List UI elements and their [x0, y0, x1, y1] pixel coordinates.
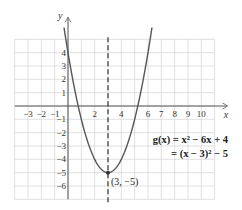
svg-text:7: 7 — [159, 109, 164, 119]
vertex-label: (3, −5) — [111, 176, 138, 188]
svg-text:−6: −6 — [56, 181, 66, 191]
svg-text:10: 10 — [197, 109, 207, 119]
svg-text:2: 2 — [92, 109, 97, 119]
svg-text:3: 3 — [62, 61, 67, 71]
parabola-chart: −3−2−1246789104321−1−2−3−4−5−6 (3, −5) x… — [0, 0, 242, 210]
svg-text:4: 4 — [119, 109, 124, 119]
svg-text:−4: −4 — [56, 154, 66, 164]
y-axis-label: y — [57, 10, 63, 21]
svg-text:6: 6 — [146, 109, 151, 119]
svg-text:−5: −5 — [56, 168, 66, 178]
svg-text:2: 2 — [62, 74, 67, 84]
svg-text:−2: −2 — [56, 128, 66, 138]
x-axis-label: x — [223, 109, 229, 120]
svg-text:−1: −1 — [56, 114, 66, 124]
svg-text:8: 8 — [172, 109, 177, 119]
svg-text:−3: −3 — [23, 109, 33, 119]
vertex-point — [106, 171, 110, 175]
equation-line-2: = (x − 3)² − 5 — [171, 148, 228, 160]
equation-line-1: g(x) = x² − 6x + 4 — [153, 134, 229, 146]
svg-text:9: 9 — [186, 109, 191, 119]
svg-text:−2: −2 — [37, 109, 47, 119]
svg-text:4: 4 — [62, 48, 67, 58]
svg-text:−3: −3 — [56, 141, 66, 151]
svg-text:1: 1 — [62, 88, 67, 98]
